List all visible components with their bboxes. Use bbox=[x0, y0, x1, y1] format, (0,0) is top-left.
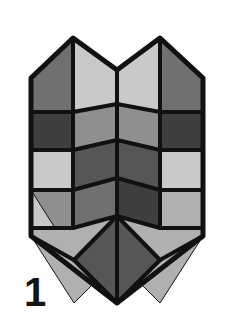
facet-row2-left-outer bbox=[31, 112, 73, 150]
figure-number-label: 1 bbox=[24, 272, 46, 312]
facet-row3-left-outer bbox=[31, 150, 73, 190]
figure-container: 1 bbox=[0, 0, 234, 327]
facet-row4-right-outer bbox=[160, 190, 203, 228]
facet-row2-right-outer bbox=[160, 112, 203, 150]
facet-row3-right-outer bbox=[160, 150, 203, 190]
